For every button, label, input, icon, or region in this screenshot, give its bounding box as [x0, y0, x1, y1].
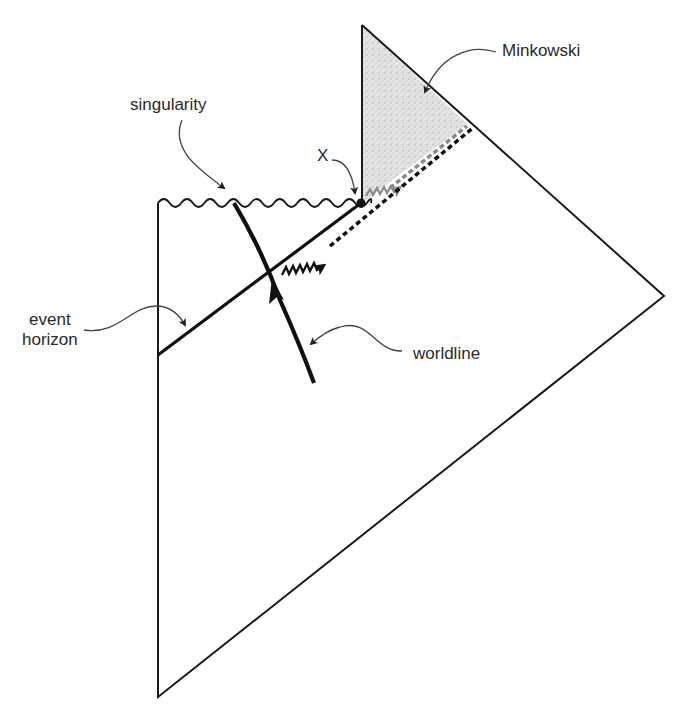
x-point — [357, 199, 366, 208]
minkowski-region — [362, 25, 467, 203]
event-horizon-label-line1: event — [22, 310, 78, 330]
worldline-leader — [311, 325, 402, 351]
event-horizon-label-line2: horizon — [22, 330, 78, 350]
penrose-diagram — [0, 0, 683, 723]
singularity-label: singularity — [130, 95, 207, 115]
x-leader — [332, 160, 355, 193]
x-point-label: X — [317, 146, 328, 166]
event-horizon-line — [158, 203, 361, 355]
singularity-line — [158, 199, 371, 207]
event-horizon-label: event horizon — [22, 310, 78, 350]
minkowski-label: Minkowski — [502, 41, 580, 61]
event-horizon-leader — [84, 306, 185, 331]
singularity-leader — [179, 120, 224, 188]
minkowski-leader — [425, 50, 496, 92]
photon-wavy — [282, 263, 323, 275]
worldline-label: worldline — [413, 344, 480, 364]
